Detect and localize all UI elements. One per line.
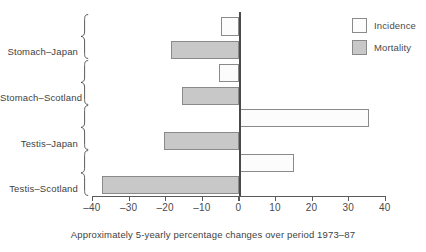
x-axis-tick <box>385 196 386 201</box>
x-axis-tick <box>275 196 276 201</box>
group-brace-icon <box>80 60 89 105</box>
bar-mortality-stomach-japan <box>171 41 239 60</box>
legend-item-incidence: Incidence <box>352 18 416 33</box>
category-label-testis-japan: Testis–Japan <box>0 133 78 151</box>
x-axis-tick <box>238 196 239 201</box>
x-axis-tick-label: –30 <box>109 202 149 213</box>
category-label-text: Stomach–Japan <box>7 46 78 57</box>
bar-chart-figure: Stomach–Japan Stomach–Scotland Testis–Ja… <box>0 0 426 252</box>
bar-mortality-stomach-scotland <box>182 87 239 105</box>
group-brace-icon <box>80 105 89 150</box>
category-label-text: Testis–Japan <box>21 138 78 149</box>
category-label-text: Testis–Scotland <box>9 183 78 194</box>
bar-mortality-testis-scotland <box>102 176 239 194</box>
bar-incidence-testis-scotland <box>239 154 294 172</box>
x-axis-tick-label: 40 <box>365 202 405 213</box>
chart-legend: Incidence Mortality <box>352 18 416 62</box>
x-axis-tick-label: 0 <box>218 202 258 213</box>
x-axis-tick-label: 10 <box>255 202 295 213</box>
x-axis-tick-label: 30 <box>328 202 368 213</box>
x-axis-tick <box>165 196 166 201</box>
bar-mortality-testis-japan <box>164 132 239 150</box>
category-label-testis-scotland: Testis–Scotland <box>0 178 78 196</box>
legend-swatch-mortality-icon <box>352 40 367 55</box>
x-axis-tick <box>202 196 203 201</box>
category-label-text: Stomach–Scotland <box>0 92 82 103</box>
chart-caption: Approximately 5-yearly percentage change… <box>0 229 426 240</box>
category-label-stomach-japan: Stomach–Japan <box>0 41 78 59</box>
bar-incidence-testis-japan <box>239 109 369 128</box>
x-axis-tick-label: –10 <box>182 202 222 213</box>
legend-swatch-incidence-icon <box>352 18 367 33</box>
x-axis-tick-label: –20 <box>145 202 185 213</box>
x-axis-tick <box>348 196 349 201</box>
legend-label-incidence: Incidence <box>374 20 416 31</box>
legend-label-mortality: Mortality <box>374 42 411 53</box>
bar-incidence-stomach-japan <box>221 17 239 36</box>
legend-item-mortality: Mortality <box>352 40 416 55</box>
group-brace-icon <box>80 150 89 196</box>
x-axis-tick-label: 20 <box>292 202 332 213</box>
x-axis-tick <box>312 196 313 201</box>
x-axis-tick <box>92 196 93 201</box>
plot-area <box>92 12 385 196</box>
category-label-stomach-scotland: Stomach–Scotland <box>0 87 78 105</box>
group-brace-icon <box>80 14 89 59</box>
x-axis-tick <box>129 196 130 201</box>
x-axis-tick-label: –40 <box>72 202 112 213</box>
bar-incidence-stomach-scotland <box>219 64 239 83</box>
zero-axis-line <box>239 12 241 196</box>
